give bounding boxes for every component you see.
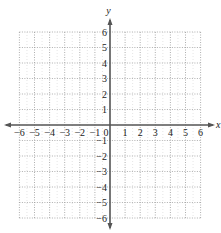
x-tick-label: −2	[74, 127, 85, 138]
y-axis-up-arrow-icon	[108, 18, 113, 25]
x-axis-right-arrow-icon	[208, 123, 215, 128]
y-tick-label: 3	[102, 73, 107, 84]
x-tick-labels: −6−5−4−3−2−10123456	[14, 127, 203, 138]
x-axis-left-arrow-icon	[4, 123, 11, 128]
y-tick-label: −4	[96, 182, 107, 193]
y-tick-label: −2	[96, 151, 107, 162]
y-axis-label: y	[105, 5, 111, 16]
x-tick-label: −3	[59, 127, 70, 138]
x-tick-label: 5	[183, 127, 188, 138]
x-tick-label: 3	[153, 127, 158, 138]
y-tick-label: −1	[96, 135, 107, 146]
x-tick-label: −4	[44, 127, 55, 138]
y-tick-label: 2	[102, 89, 107, 100]
x-tick-label: 2	[138, 127, 143, 138]
axes	[4, 18, 215, 230]
x-tick-label: −5	[29, 127, 40, 138]
y-axis-down-arrow-icon	[108, 223, 113, 230]
y-tick-label: −5	[96, 197, 107, 208]
x-axis-label: x	[215, 119, 221, 130]
y-tick-label: 6	[102, 27, 107, 38]
y-tick-label: 4	[102, 58, 107, 69]
y-tick-label: −6	[96, 213, 107, 224]
y-tick-label: 5	[102, 42, 107, 53]
x-tick-label: −6	[14, 127, 25, 138]
x-tick-label: 6	[198, 127, 203, 138]
x-tick-label: 1	[123, 127, 128, 138]
x-tick-label: 4	[168, 127, 173, 138]
coordinate-plane: −6−5−4−3−2−10123456 −6−5−4−3−2−1123456 x…	[0, 0, 221, 233]
y-tick-label: 1	[102, 104, 107, 115]
y-tick-label: −3	[96, 166, 107, 177]
